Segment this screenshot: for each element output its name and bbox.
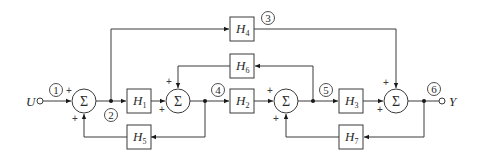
plus-sign: +	[159, 104, 165, 115]
svg-text:3: 3	[265, 12, 271, 24]
plus-sign: +	[72, 113, 78, 124]
sigma-symbol: Σ	[392, 94, 400, 109]
block-h5: H5	[127, 125, 151, 149]
summing-junction-1: Σ + +	[66, 85, 96, 124]
branch-dot-node4	[203, 99, 207, 103]
output-terminal: Y	[439, 94, 458, 109]
branch-dot-node5	[311, 99, 315, 103]
block-h1: H1	[127, 89, 151, 113]
plus-sign: +	[273, 113, 279, 124]
block-h4: H4	[230, 17, 254, 41]
block-h6: H6	[230, 54, 254, 78]
plus-sign: +	[377, 104, 383, 115]
block-h2: H2	[230, 89, 254, 113]
summing-junction-4: Σ + +	[377, 77, 408, 115]
svg-text:2: 2	[108, 109, 114, 121]
plus-sign: +	[166, 76, 172, 87]
input-terminal: U	[26, 94, 43, 109]
block-h3: H3	[339, 89, 363, 113]
node-label-3: 3	[262, 12, 275, 25]
svg-text:5: 5	[323, 84, 329, 96]
plus-sign: +	[383, 77, 389, 88]
block-diagram: U Y Σ + + Σ + + Σ + + Σ + + H1	[0, 0, 479, 164]
branch-dot-node6	[422, 99, 426, 103]
block-h7: H7	[339, 125, 363, 149]
svg-text:4: 4	[215, 84, 221, 96]
node-label-5: 5	[320, 84, 333, 97]
summing-junction-3: Σ + +	[267, 85, 298, 124]
output-label: Y	[449, 94, 458, 109]
sigma-symbol: Σ	[80, 94, 88, 109]
node-label-1: 1	[50, 84, 63, 97]
node-label-2: 2	[105, 109, 118, 122]
plus-sign: +	[267, 85, 273, 96]
node-label-4: 4	[212, 84, 225, 97]
sigma-symbol: Σ	[282, 94, 290, 109]
branch-dot-node2	[109, 99, 113, 103]
svg-text:6: 6	[431, 83, 437, 95]
node-label-6: 6	[428, 83, 441, 96]
wires	[43, 29, 439, 137]
plus-sign: +	[66, 85, 72, 96]
svg-text:1: 1	[53, 84, 59, 96]
sigma-symbol: Σ	[174, 94, 182, 109]
summing-junction-2: Σ + +	[159, 76, 190, 115]
input-label: U	[26, 94, 37, 109]
